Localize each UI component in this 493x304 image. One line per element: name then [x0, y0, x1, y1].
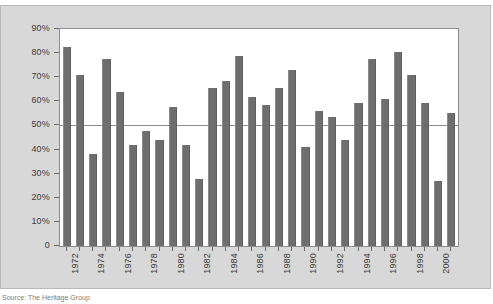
x-tick-label-1992: 1992 — [335, 253, 345, 274]
bar-1984 — [222, 81, 230, 246]
y-tick-label-20: 20% — [31, 192, 50, 202]
bar-1978 — [142, 131, 150, 246]
y-tick-label-90: 90% — [31, 23, 50, 33]
x-tick-label-1976: 1976 — [123, 253, 133, 274]
bar-1977 — [129, 145, 137, 246]
bar-1976 — [116, 92, 124, 246]
x-tick-mark-1984 — [225, 247, 226, 251]
bar-1987 — [262, 105, 270, 246]
x-tick-label-1978: 1978 — [149, 253, 159, 274]
x-tick-label-1982: 1982 — [202, 253, 212, 274]
x-tick-mark-1981 — [185, 247, 186, 251]
x-tick-label-1984: 1984 — [229, 253, 239, 274]
bar-1992 — [328, 117, 336, 246]
x-tick-mark-1987 — [265, 247, 266, 251]
x-tick-mark-1980 — [172, 247, 173, 251]
bar-1985 — [235, 56, 243, 246]
x-tick-label-1996: 1996 — [388, 253, 398, 274]
bar-2000 — [434, 181, 442, 246]
x-tick-mark-1979 — [159, 247, 160, 251]
y-tick-label-60: 60% — [31, 95, 50, 105]
x-tick-mark-1996 — [384, 247, 385, 251]
bar-1998 — [407, 75, 415, 246]
bar-1972 — [63, 47, 71, 246]
bar-1974 — [89, 154, 97, 246]
x-tick-mark-1973 — [79, 247, 80, 251]
x-tick-label-2000: 2000 — [441, 253, 451, 274]
y-tick-label-0: 0 — [45, 240, 50, 250]
x-tick-label-1990: 1990 — [308, 253, 318, 274]
x-tick-mark-1991 — [318, 247, 319, 251]
bar-1989 — [288, 70, 296, 246]
x-tick-label-1994: 1994 — [362, 253, 372, 274]
x-tick-mark-1985 — [238, 247, 239, 251]
x-tick-mark-1986 — [251, 247, 252, 251]
bar-1994 — [354, 103, 362, 246]
bar-1982 — [195, 179, 203, 247]
y-tick-label-70: 70% — [31, 71, 50, 81]
figure-container: 90%80%70%60%50%40%30%20%10%0 19721974197… — [0, 0, 493, 304]
bar-1999 — [421, 103, 429, 246]
bar-1996 — [381, 99, 389, 246]
bar-1995 — [368, 59, 376, 246]
x-tick-label-1998: 1998 — [415, 253, 425, 274]
x-tick-mark-2000 — [437, 247, 438, 251]
bar-1986 — [248, 97, 256, 246]
bar-1988 — [275, 88, 283, 246]
x-tick-label-1980: 1980 — [176, 253, 186, 274]
x-tick-mark-1982 — [198, 247, 199, 251]
x-tick-mark-1972 — [66, 247, 67, 251]
x-tick-mark-1994 — [358, 247, 359, 251]
x-tick-label-1974: 1974 — [96, 253, 106, 274]
source-note: Source: The Heritage Group — [2, 294, 90, 304]
bar-series — [60, 29, 458, 246]
x-tick-mark-1999 — [424, 247, 425, 251]
x-tick-mark-1992 — [331, 247, 332, 251]
x-axis: 1972197419761978198019821984198619881990… — [59, 247, 459, 295]
x-tick-mark-1990 — [304, 247, 305, 251]
x-tick-mark-1995 — [371, 247, 372, 251]
y-tick-label-10: 10% — [31, 216, 50, 226]
bar-1990 — [301, 147, 309, 246]
bar-1997 — [394, 52, 402, 246]
x-tick-mark-1983 — [212, 247, 213, 251]
x-tick-mark-1976 — [119, 247, 120, 251]
x-tick-label-1986: 1986 — [255, 253, 265, 274]
x-tick-mark-1997 — [397, 247, 398, 251]
bar-2001 — [447, 113, 455, 246]
y-tick-label-80: 80% — [31, 47, 50, 57]
x-tick-label-1972: 1972 — [70, 253, 80, 274]
bar-1981 — [182, 145, 190, 246]
x-tick-mark-1975 — [105, 247, 106, 251]
bar-1983 — [208, 88, 216, 246]
bar-1980 — [169, 107, 177, 246]
x-tick-mark-1998 — [411, 247, 412, 251]
bar-1991 — [315, 111, 323, 246]
x-tick-mark-1993 — [344, 247, 345, 251]
bar-1975 — [102, 59, 110, 246]
y-tick-label-30: 30% — [31, 168, 50, 178]
x-tick-mark-1989 — [291, 247, 292, 251]
y-tick-label-50: 50% — [31, 119, 50, 129]
bar-1973 — [76, 75, 84, 246]
chart-panel: 90%80%70%60%50%40%30%20%10%0 19721974197… — [0, 5, 491, 289]
bar-1993 — [341, 140, 349, 246]
x-tick-mark-1988 — [278, 247, 279, 251]
x-tick-mark-1977 — [132, 247, 133, 251]
x-tick-mark-2001 — [450, 247, 451, 251]
x-tick-mark-1974 — [92, 247, 93, 251]
x-tick-label-1988: 1988 — [282, 253, 292, 274]
y-tick-label-40: 40% — [31, 144, 50, 154]
y-axis: 90%80%70%60%50%40%30%20%10%0 — [1, 28, 59, 247]
x-tick-mark-1978 — [145, 247, 146, 251]
bar-1979 — [155, 140, 163, 246]
plot-area — [59, 28, 459, 247]
